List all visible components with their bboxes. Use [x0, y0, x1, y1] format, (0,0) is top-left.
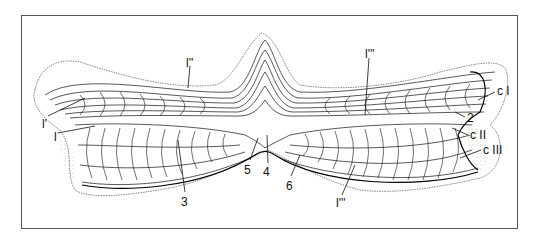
label-l-prime: l'	[42, 118, 47, 130]
label-3: 3	[181, 196, 188, 208]
epithelium-cells	[34, 33, 508, 196]
label-l-double-prime: l''	[186, 57, 193, 69]
tissue-section-drawing	[0, 0, 540, 245]
label-4: 4	[263, 166, 270, 178]
epithelium-fill	[55, 125, 489, 185]
label-c-I: c I	[497, 85, 510, 97]
leader-lines	[48, 58, 495, 195]
label-5: 5	[244, 164, 251, 176]
label-l-triple-prime-bottom: l'''	[336, 197, 346, 209]
upper-lamella-fibers	[45, 40, 495, 118]
label-c-III: c III	[483, 144, 502, 156]
label-l: l	[54, 131, 57, 143]
label-l-triple-prime-top: l'''	[365, 48, 375, 60]
lamella-borders	[82, 72, 485, 188]
label-6: 6	[286, 180, 293, 192]
label-c-II: c II	[470, 129, 486, 141]
label-2: 2	[467, 112, 474, 124]
